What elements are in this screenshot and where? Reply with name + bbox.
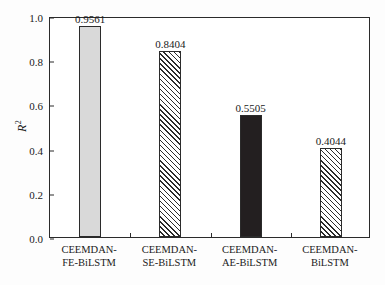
x-axis-tick-mark <box>130 233 131 237</box>
x-axis-category-label-line: CEEMDAN- <box>302 244 357 257</box>
bar[interactable] <box>240 115 262 237</box>
y-axis-tick-mark <box>50 18 54 19</box>
x-axis-category-label-line: CEEMDAN- <box>142 244 197 257</box>
y-axis-tick-mark <box>50 62 54 63</box>
y-axis-tick-mark <box>50 106 54 107</box>
y-axis-label: R2 <box>14 106 30 146</box>
y-axis-tick-label: 0.2 <box>5 189 43 200</box>
x-axis-category-label-line: FE-BiLSTM <box>61 257 116 270</box>
y-axis-tick-mark <box>50 150 54 151</box>
bar[interactable] <box>79 26 101 237</box>
x-axis-category-label-line: BiLSTM <box>302 257 357 270</box>
y-axis-tick-label: 0.4 <box>5 145 43 156</box>
x-axis-category-label-line: SE-BiLSTM <box>142 257 197 270</box>
y-axis-tick-mark <box>50 239 54 240</box>
y-axis-tick-label: 0.0 <box>5 234 43 245</box>
y-axis-tick-label: 0.8 <box>5 57 43 68</box>
bar[interactable] <box>320 148 342 237</box>
bar-value-label: 0.5505 <box>236 103 266 114</box>
y-axis-label-base: R <box>15 124 29 132</box>
x-axis-tick-mark <box>291 233 292 237</box>
y-axis-label-exponent: 2 <box>14 120 23 124</box>
x-axis-category-label-line: CEEMDAN- <box>61 244 116 257</box>
x-axis-category-label-line: CEEMDAN- <box>222 244 277 257</box>
bar-value-label: 0.4044 <box>316 136 346 147</box>
x-axis-category-label: CEEMDAN-BiLSTM <box>302 244 357 269</box>
x-axis-category-label: CEEMDAN-AE-BiLSTM <box>222 244 277 269</box>
x-axis-tick-mark <box>211 233 212 237</box>
y-axis-tick-label: 0.6 <box>5 101 43 112</box>
bar-value-label: 0.8404 <box>155 39 185 50</box>
bar-chart-figure: R2 0.00.20.40.60.81.0 0.95610.84040.5505… <box>0 0 385 285</box>
bar-value-label: 0.9561 <box>75 14 105 25</box>
x-axis-category-label: CEEMDAN-SE-BiLSTM <box>142 244 197 269</box>
plot-area: 0.00.20.40.60.81.0 0.95610.84040.55050.4… <box>49 17 370 238</box>
x-axis-category-label-line: AE-BiLSTM <box>222 257 277 270</box>
x-axis-category-label: CEEMDAN-FE-BiLSTM <box>61 244 116 269</box>
y-axis-tick-label: 1.0 <box>5 13 43 24</box>
y-axis-tick-mark <box>50 194 54 195</box>
bar[interactable] <box>159 51 181 237</box>
